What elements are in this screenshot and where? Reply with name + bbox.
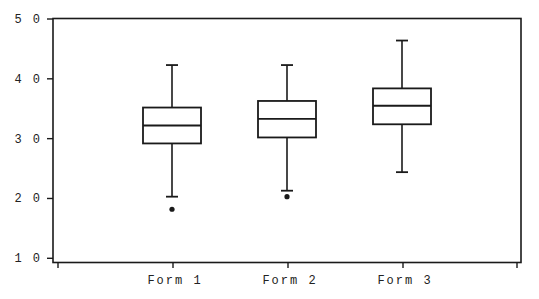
y-tick-label: 1 0 — [14, 252, 42, 266]
y-tick-label: 4 0 — [14, 73, 42, 87]
y-tick-label: 5 0 — [14, 13, 42, 27]
y-tick-label: 3 0 — [14, 133, 42, 147]
y-tick-label: 2 0 — [14, 192, 42, 206]
box-2 — [258, 65, 316, 199]
x-tick-label: Form 3 — [377, 274, 432, 288]
box-1 — [143, 65, 201, 212]
box-plot-chart: 1 02 03 04 05 0 Form 1Form 2Form 3 — [0, 0, 539, 299]
box-3 — [373, 41, 431, 173]
outlier-point — [284, 194, 289, 199]
x-tick-label: Form 1 — [147, 274, 202, 288]
outlier-point — [169, 207, 174, 212]
x-axis: Form 1Form 2Form 3 — [58, 263, 517, 289]
box-series — [143, 41, 431, 212]
x-tick-label: Form 2 — [262, 274, 317, 288]
y-axis: 1 02 03 04 05 0 — [14, 13, 53, 266]
